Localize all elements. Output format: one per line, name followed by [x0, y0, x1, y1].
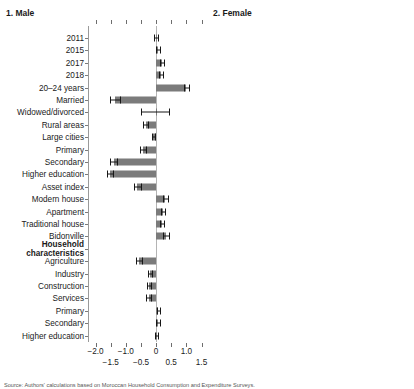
- x-axis-tick-label: −1.5: [103, 358, 119, 367]
- panel-male: 1. Male 201120152017201820–24 yearsMarri…: [0, 0, 207, 389]
- category-tick: [85, 199, 88, 200]
- category-tick: [85, 336, 88, 337]
- category-label: Apartment: [46, 207, 84, 216]
- category-label: Householdcharacteristics: [26, 240, 84, 258]
- category-label: Asset index: [42, 182, 84, 191]
- panel-male-title: 1. Male: [6, 8, 34, 18]
- category-tick: [85, 63, 88, 64]
- category-tick: [85, 125, 88, 126]
- category-label: Secondary: [45, 158, 84, 167]
- category-tick: [85, 298, 88, 299]
- confidence-interval-cap: [158, 332, 159, 339]
- category-label: 20–24 years: [39, 83, 84, 92]
- category-label: Widowed/divorced: [17, 108, 84, 117]
- x-axis-tick-label: −1.0: [118, 347, 134, 356]
- category-label: Primary: [56, 145, 84, 154]
- x-axis-tick-label: −0.5: [133, 358, 149, 367]
- category-label: Services: [53, 294, 84, 303]
- confidence-interval-line: [134, 186, 141, 187]
- category-label: Rural areas: [42, 120, 84, 129]
- category-tick: [85, 311, 88, 312]
- x-axis-tick-label: −2.0: [87, 347, 103, 356]
- confidence-interval-line: [110, 162, 117, 163]
- category-label: Modern house: [32, 195, 84, 204]
- category-label: Traditional house: [21, 220, 84, 229]
- category-tick: [85, 236, 88, 237]
- chart-row: Higher education: [88, 326, 200, 346]
- x-axis-tick-label: 1.0: [181, 347, 192, 356]
- category-tick: [85, 50, 88, 51]
- category-label: Large cities: [42, 133, 84, 142]
- plot-area-male: 201120152017201820–24 yearsMarriedWidowe…: [88, 26, 200, 342]
- category-label: Higher education: [22, 331, 84, 340]
- category-tick: [85, 162, 88, 163]
- category-tick: [85, 75, 88, 76]
- confidence-interval-cap: [155, 332, 156, 339]
- category-tick: [85, 38, 88, 39]
- panel-female-title: 2. Female: [213, 8, 252, 18]
- category-tick: [85, 261, 88, 262]
- category-tick: [85, 150, 88, 151]
- category-tick: [85, 100, 88, 101]
- category-tick: [85, 187, 88, 188]
- category-tick: [85, 212, 88, 213]
- category-label: 2015: [66, 46, 84, 55]
- category-label: Construction: [38, 282, 84, 291]
- category-tick: [85, 112, 88, 113]
- category-tick: [85, 286, 88, 287]
- category-label: Primary: [56, 306, 84, 315]
- source-note: Source: Authors' calculations based on M…: [4, 382, 410, 389]
- confidence-interval-line: [141, 112, 169, 113]
- category-label: 2017: [66, 58, 84, 67]
- x-axis-tick-label: 0: [154, 347, 159, 356]
- category-label: Agriculture: [45, 257, 84, 266]
- panel-female: 2. Female 201120152017201820–24 yearsMar…: [207, 0, 414, 389]
- category-label: 2018: [66, 71, 84, 80]
- x-axis-tick-label: 1.5: [196, 358, 207, 367]
- category-label: Married: [56, 96, 84, 105]
- category-label: 2011: [66, 34, 84, 43]
- category-label: Higher education: [22, 170, 84, 179]
- confidence-interval-line: [110, 100, 120, 101]
- category-tick: [85, 137, 88, 138]
- category-tick: [85, 174, 88, 175]
- category-tick: [85, 88, 88, 89]
- x-axis-tick-label: 0.5: [166, 358, 177, 367]
- category-tick: [85, 274, 88, 275]
- category-tick: [85, 323, 88, 324]
- category-label: Secondary: [45, 319, 84, 328]
- category-tick: [85, 249, 88, 250]
- category-label: Industry: [55, 269, 84, 278]
- x-axis-tick-ruler: [88, 20, 200, 24]
- category-tick: [85, 224, 88, 225]
